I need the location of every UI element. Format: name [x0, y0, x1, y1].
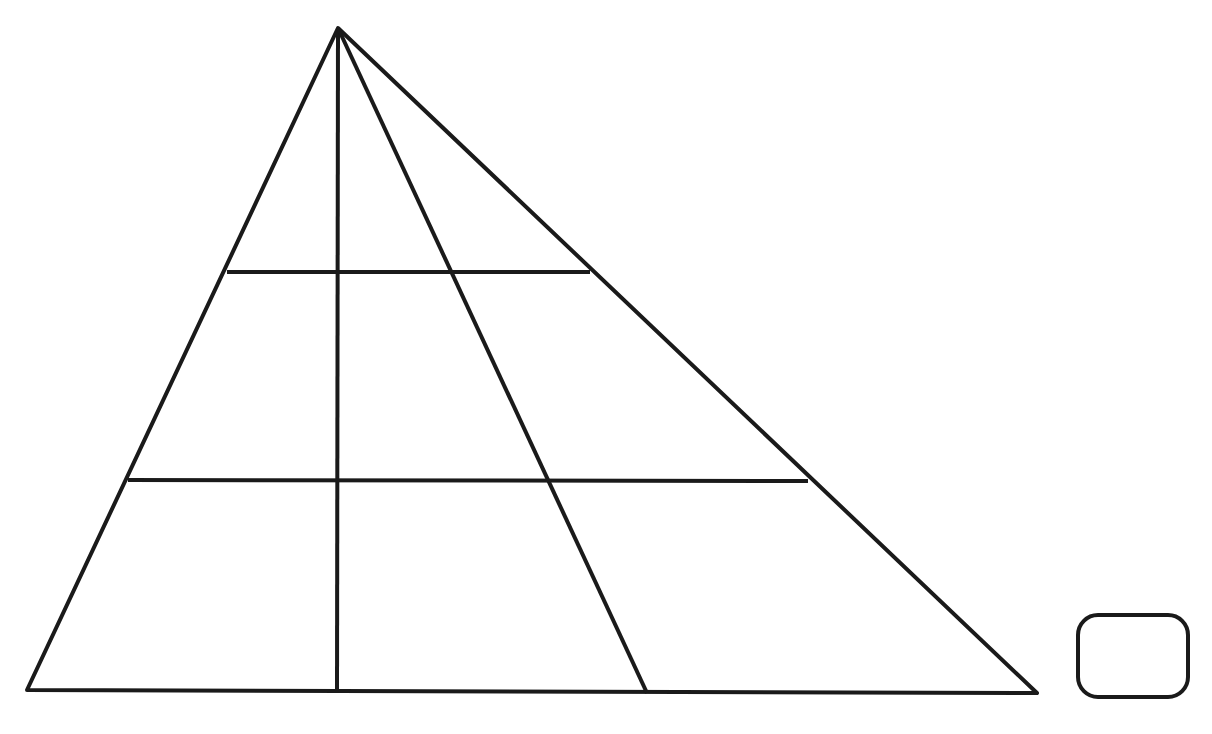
cevian-line [338, 28, 647, 693]
rounded-square [1078, 615, 1188, 697]
triangle-outline [27, 28, 1037, 693]
figure-canvas [0, 0, 1212, 734]
geometry-figure-svg [0, 0, 1212, 734]
median-line [337, 28, 338, 692]
lower-chord-line [128, 480, 808, 481]
